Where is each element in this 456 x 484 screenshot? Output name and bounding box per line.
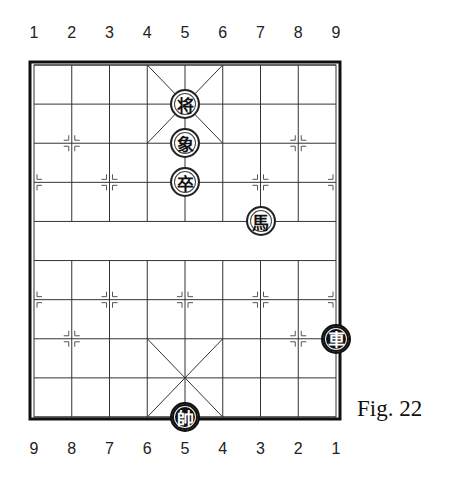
file-label: 8 xyxy=(67,440,76,458)
file-label: 6 xyxy=(218,24,227,42)
file-label: 9 xyxy=(332,24,341,42)
file-label: 3 xyxy=(105,24,114,42)
file-label: 4 xyxy=(143,24,152,42)
file-label: 6 xyxy=(143,440,152,458)
file-label: 5 xyxy=(181,24,190,42)
file-label: 3 xyxy=(256,440,265,458)
file-label: 8 xyxy=(294,24,303,42)
file-label: 4 xyxy=(218,440,227,458)
file-label: 1 xyxy=(30,24,39,42)
piece-black-soldier[interactable]: 卒 xyxy=(170,167,200,197)
piece-black-horse[interactable]: 馬 xyxy=(246,206,276,236)
file-label: 2 xyxy=(294,440,303,458)
piece-red-general[interactable]: 帥 xyxy=(170,402,200,432)
piece-black-elephant[interactable]: 象 xyxy=(170,128,200,158)
figure-caption: Fig. 22 xyxy=(357,396,422,422)
piece-black-general[interactable]: 将 xyxy=(170,89,200,119)
file-label: 7 xyxy=(105,440,114,458)
file-label: 2 xyxy=(67,24,76,42)
file-label: 7 xyxy=(256,24,265,42)
file-label: 1 xyxy=(332,440,341,458)
file-label: 5 xyxy=(181,440,190,458)
piece-red-chariot[interactable]: 車 xyxy=(321,324,351,354)
file-label: 9 xyxy=(30,440,39,458)
